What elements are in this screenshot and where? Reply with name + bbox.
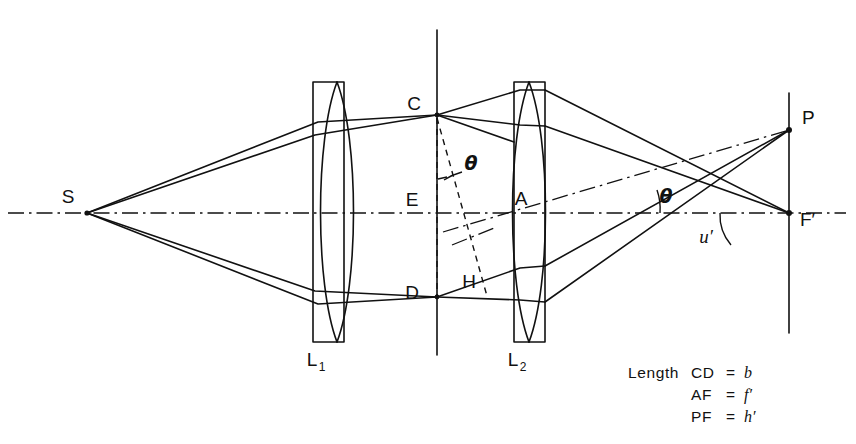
label-point-f-prime: F′ xyxy=(800,209,816,230)
lens-l2-group xyxy=(513,82,546,342)
chief-ray-dashdot xyxy=(443,130,789,232)
point-dot-d xyxy=(435,295,440,300)
ray-upper-incident xyxy=(87,115,437,213)
label-lens-l1-group: L 1 xyxy=(307,349,326,374)
label-point-h: H xyxy=(462,271,476,292)
ray-lower-secondary-incident xyxy=(87,213,437,297)
label-angle-theta-stop: θ xyxy=(464,152,477,174)
legend-line-1-prefix: Length xyxy=(628,364,679,381)
ray-upper-through-l2-top xyxy=(437,90,545,115)
label-point-c: C xyxy=(407,93,421,114)
legend-line-2-pair: AF xyxy=(691,386,712,403)
label-angle-u-prime: u′ xyxy=(699,226,714,247)
optical-diagram-figure: S C E D H A P F′ L 1 L 2 θ θ u′ Length C… xyxy=(0,0,856,444)
point-dot-c xyxy=(435,113,440,118)
ray-lower-incident xyxy=(87,213,437,304)
label-lens-l1-subscript: 1 xyxy=(319,360,326,374)
lens-l2-left-surface xyxy=(513,82,530,342)
legend-line-3-pair: PF xyxy=(691,408,712,425)
label-angle-theta-chief: θ xyxy=(659,185,672,207)
label-point-p: P xyxy=(802,107,815,128)
legend-line-1-pair: CD xyxy=(691,364,715,381)
label-point-s: S xyxy=(62,186,75,207)
ray-lower-to-image-point xyxy=(545,130,789,302)
point-dot-f xyxy=(786,210,792,216)
optical-ray-diagram-canvas: S C E D H A P F′ L 1 L 2 θ θ u′ Length C… xyxy=(0,0,856,444)
point-dot-p xyxy=(786,127,792,133)
point-dot-s xyxy=(84,210,89,215)
ray-lower-secondary-in-l2 xyxy=(437,266,545,297)
label-point-a: A xyxy=(515,188,528,209)
ray-upper-secondary-incident xyxy=(87,115,437,213)
ray-lower-in-l2 xyxy=(437,297,545,302)
tilted-stop-dashed-line xyxy=(437,118,487,296)
legend-line-1-value: b xyxy=(744,364,752,381)
legend-line-2-value: f′ xyxy=(744,386,752,404)
label-point-e: E xyxy=(406,189,419,210)
legend-line-3-eq: = xyxy=(726,408,736,425)
label-lens-l2-group: L 2 xyxy=(508,349,527,374)
legend-line-2-eq: = xyxy=(726,386,736,403)
label-lens-l2-subscript: 2 xyxy=(520,360,527,374)
legend-group: Length CD = b AF = f′ PF = h′ xyxy=(628,364,756,425)
lens-l2-right-surface xyxy=(529,82,546,342)
perpendicular-tick-dashdot xyxy=(452,228,494,245)
label-lens-l1: L xyxy=(307,349,318,370)
label-point-d: D xyxy=(405,282,419,303)
legend-line-1-eq: = xyxy=(726,364,736,381)
u-prime-arc xyxy=(720,213,731,245)
label-lens-l2: L xyxy=(508,349,519,370)
legend-line-3-value: h′ xyxy=(744,408,756,425)
